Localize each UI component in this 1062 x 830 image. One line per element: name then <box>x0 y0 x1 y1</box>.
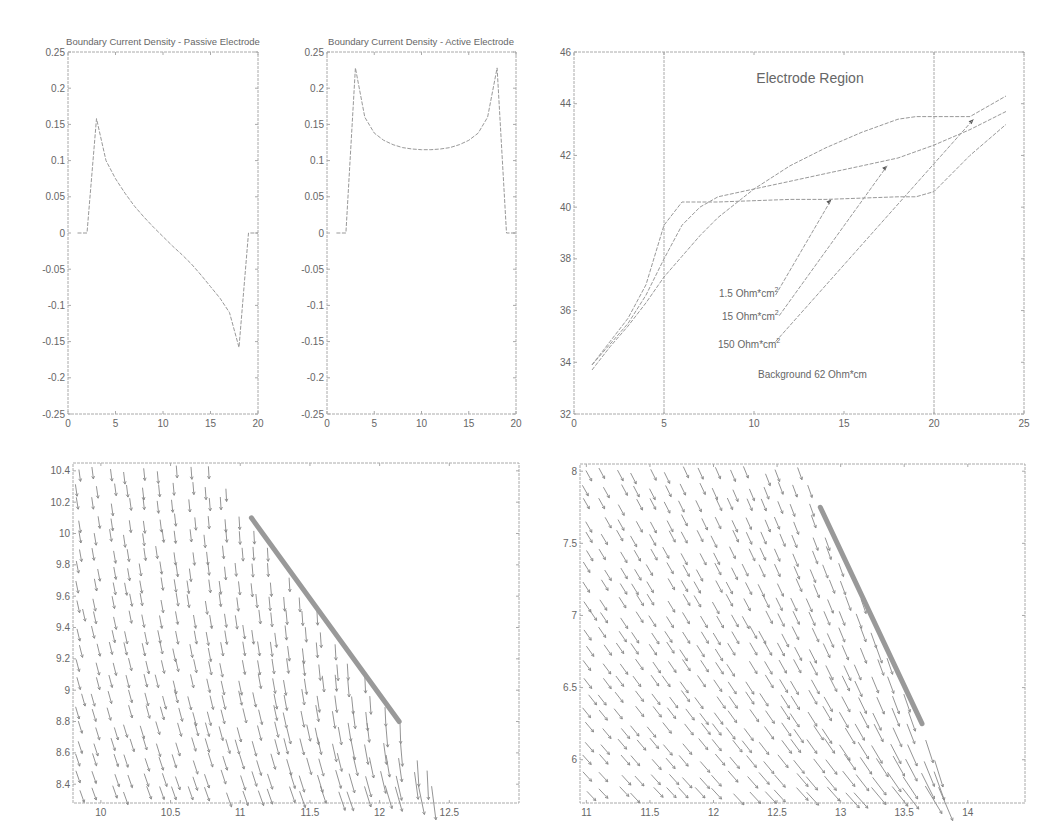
field-vector <box>663 723 672 734</box>
field-vector <box>647 582 654 593</box>
field-vector <box>599 549 605 560</box>
field-vector <box>385 786 392 809</box>
field-vector <box>782 740 792 753</box>
field-vector <box>782 723 791 736</box>
field-vector <box>651 549 657 560</box>
field-vector <box>814 584 820 597</box>
x-tick-label: 11 <box>235 807 246 818</box>
field-vector <box>583 498 589 509</box>
field-vector <box>619 597 626 608</box>
field-vector <box>603 729 611 739</box>
field-vector <box>856 775 869 791</box>
data-series <box>336 68 516 233</box>
field-vector <box>307 758 312 775</box>
field-vector <box>765 727 774 740</box>
field-vector <box>700 778 710 789</box>
field-vector <box>778 755 788 768</box>
active-electrode-plot: 051015200.250.20.150.10.050-0.05-0.1-0.1… <box>301 47 522 430</box>
field-vector <box>701 632 708 644</box>
field-vector <box>685 724 694 735</box>
field-vector <box>670 697 678 708</box>
field-vector <box>750 709 759 721</box>
field-vector <box>235 740 239 755</box>
field-vector <box>909 712 916 731</box>
x-tick-label: 12.5 <box>440 807 460 818</box>
field-vector <box>637 740 646 750</box>
field-vector <box>370 696 371 714</box>
field-vector <box>730 547 736 559</box>
y-tick-label: 42 <box>560 150 572 161</box>
field-vector <box>766 611 773 624</box>
field-vector <box>694 596 701 608</box>
field-vector <box>700 483 705 494</box>
axes-frame <box>327 52 516 414</box>
field-vector <box>726 594 733 606</box>
field-vector <box>731 470 736 482</box>
field-vector <box>667 642 674 653</box>
field-vector <box>728 711 737 723</box>
field-vector <box>621 568 628 579</box>
field-vector <box>621 618 628 629</box>
field-vector <box>775 775 786 787</box>
y-tick-label: 10 <box>59 528 71 539</box>
field-vector <box>631 643 638 654</box>
pointer-line <box>779 166 887 316</box>
field-vector <box>252 741 256 756</box>
field-vector <box>811 680 819 694</box>
x-tick-label: 11 <box>581 807 592 818</box>
field-vector <box>822 729 832 744</box>
field-vector <box>813 538 818 551</box>
field-vector <box>583 562 590 573</box>
field-vector <box>712 739 721 750</box>
field-vector <box>172 787 177 800</box>
field-vector <box>854 665 861 680</box>
x-tick-label: 12 <box>374 807 386 818</box>
y-tick-label: -0.2 <box>48 372 66 383</box>
field-vector <box>872 787 886 804</box>
field-vector <box>336 770 341 788</box>
y-tick-label: 0 <box>318 228 324 239</box>
field-vector <box>666 486 672 497</box>
field-vector <box>744 728 753 740</box>
field-vector <box>635 776 644 786</box>
field-vector <box>935 760 943 787</box>
field-vector <box>774 549 780 562</box>
field-vector <box>794 566 800 579</box>
field-vector <box>728 682 736 694</box>
field-vector <box>600 754 609 764</box>
field-vector <box>584 630 591 640</box>
field-vector <box>620 664 628 675</box>
field-vector <box>683 612 690 623</box>
field-vector <box>585 722 593 732</box>
passive-plot-title: Boundary Current Density - Passive Elect… <box>66 36 260 47</box>
field-vector <box>813 551 818 564</box>
field-vector <box>307 725 311 742</box>
y-tick-label: -0.15 <box>42 336 65 347</box>
field-vector <box>765 643 772 656</box>
field-vector <box>636 612 643 623</box>
field-vector <box>381 771 386 793</box>
field-vector <box>781 695 789 708</box>
field-vector <box>924 761 934 786</box>
y-tick-label: 38 <box>560 253 572 264</box>
field-vector <box>746 518 751 530</box>
axes-frame <box>68 52 258 414</box>
field-vector <box>668 579 675 590</box>
field-vector <box>632 584 639 595</box>
pointer-line <box>776 199 832 295</box>
x-tick-label: 13.5 <box>894 807 914 818</box>
field-vector <box>289 578 290 592</box>
field-vector <box>809 612 815 626</box>
field-vector <box>730 757 740 769</box>
field-vector <box>617 530 623 541</box>
field-vector <box>680 650 688 661</box>
field-vector <box>808 712 817 726</box>
field-vector <box>809 690 817 704</box>
field-vector <box>636 659 644 670</box>
field-vector <box>748 777 758 789</box>
field-vector <box>888 677 894 694</box>
field-vector <box>267 548 268 562</box>
field-vector <box>633 676 641 687</box>
field-vector <box>780 534 785 547</box>
field-vector <box>599 498 605 509</box>
